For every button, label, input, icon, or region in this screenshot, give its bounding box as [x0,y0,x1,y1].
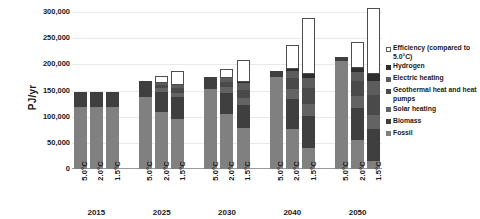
bar-group [268,12,317,169]
bar-slot [284,12,300,169]
stacked-bar[interactable] [139,81,152,169]
x-axis: 5.0°C2.0°C1.5°C20155.0°C2.0°C1.5°C20255.… [72,170,382,219]
bar-segment [90,107,103,169]
bar-slot [154,12,170,169]
bar-slot [366,12,382,169]
stacked-bar-chart: PJ/yr 300,000250,000200,000150,000100,00… [0,0,480,219]
y-axis-tick-label: 200,000 [22,61,70,69]
x-axis-year-label: 2040 [268,208,317,217]
bar-segment [351,108,364,139]
y-axis-tick-label: 300,000 [22,8,70,16]
y-axis-tick-label: 250,000 [22,34,70,42]
legend-item[interactable]: Hydrogen [386,62,480,73]
legend-swatch-icon [386,119,391,124]
bar-slot [137,12,153,169]
bar-segment [335,61,348,169]
x-axis-year-label: 2015 [72,208,121,217]
stacked-bar[interactable] [335,57,348,169]
stacked-bar[interactable] [286,45,299,169]
bar-segment [106,107,119,169]
bar-segment [286,71,299,78]
stacked-bar[interactable] [367,8,380,169]
legend-swatch-icon [386,107,391,112]
legend-item[interactable]: Efficiency (compared to 5.0°C) [386,44,480,61]
group-spacer [317,12,334,169]
bar-segment [351,72,364,81]
stacked-bar[interactable] [204,77,217,169]
legend-swatch-icon [386,131,391,136]
bar-segment [367,8,380,74]
x-axis-group-spacer [186,170,203,219]
group-spacer [251,12,268,169]
stacked-bar[interactable] [220,69,233,169]
bar-segment [171,97,184,119]
bar-segment [171,71,184,86]
bar-segment [351,42,364,67]
bar-segment [204,89,217,169]
x-axis-group: 5.0°C2.0°C1.5°C2050 [333,170,382,219]
plot-area [72,12,382,169]
bar-slot [333,12,349,169]
stacked-bar[interactable] [270,71,283,169]
bar-segment [302,88,315,104]
bar-segment [155,76,168,83]
legend-item-label: Hydrogen [393,62,425,71]
legend-item-label: Efficiency (compared to 5.0°C) [393,44,480,61]
legend-item[interactable]: Biomass [386,117,480,128]
bar-segment [367,129,380,160]
bar-segment [351,96,364,109]
y-axis-tick-label: 0 [22,165,70,173]
bar-segment [220,69,233,78]
bar-group [333,12,382,169]
bar-segment [286,89,299,98]
x-axis-group-spacer [251,170,268,219]
legend-item[interactable]: Solar heating [386,105,480,116]
bar-segment [367,115,380,130]
x-axis-group: 5.0°C2.0°C1.5°C2040 [268,170,317,219]
bar-slot [88,12,104,169]
x-axis-group: 5.0°C2.0°C1.5°C2025 [137,170,186,219]
bar-segment [367,95,380,115]
legend-swatch-icon [386,47,391,52]
bar-segment [220,93,233,114]
legend-item[interactable]: Fossil [386,129,480,140]
bar-segment [286,99,299,129]
stacked-bar[interactable] [74,92,87,169]
bar-slot [104,12,120,169]
bar-slot [350,12,366,169]
x-axis-year-label: 2050 [333,208,382,217]
bar-segment [155,92,168,113]
legend-item-label: Geothermal heat and heat pumps [393,86,480,103]
bar-segment [237,98,250,105]
x-axis-group: 5.0°C2.0°C1.5°C2030 [203,170,252,219]
bar-segment [74,92,87,108]
bar-group [72,12,121,169]
y-axis-tick-label: 50,000 [22,139,70,147]
bar-segment [106,92,119,108]
bar-segment [367,74,380,81]
x-axis-group-spacer [317,170,334,219]
bar-segment [302,104,315,116]
bar-slot [170,12,186,169]
bar-segment [204,77,217,90]
x-axis-scenario-label: 1.5°C [374,161,383,180]
stacked-bar[interactable] [90,92,103,169]
stacked-bar[interactable] [171,71,184,169]
stacked-bar[interactable] [351,42,364,169]
x-axis-group-spacer [121,170,138,219]
group-spacer [121,12,138,169]
bar-segment [139,97,152,169]
stacked-bar[interactable] [155,76,168,169]
legend-item[interactable]: Geothermal heat and heat pumps [386,86,480,103]
legend: Efficiency (compared to 5.0°C)HydrogenEl… [386,44,480,141]
legend-item[interactable]: Electric heating [386,74,480,85]
x-axis-year-label: 2025 [137,208,186,217]
y-axis-tick-label: 150,000 [22,87,70,95]
y-axis-tick-label: 100,000 [22,113,70,121]
bar-segment [237,105,250,128]
stacked-bar[interactable] [106,92,119,169]
bar-segment [237,90,250,98]
legend-swatch-icon [386,65,391,70]
stacked-bar[interactable] [237,60,250,169]
stacked-bar[interactable] [302,18,315,169]
